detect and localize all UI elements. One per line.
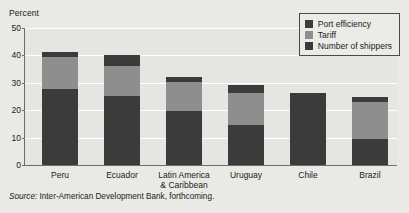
x-axis-category-label: Uruguay bbox=[230, 170, 262, 180]
y-tick-mark bbox=[22, 110, 25, 111]
bar-segment[interactable] bbox=[228, 93, 264, 125]
bar-segment[interactable] bbox=[42, 57, 78, 89]
bar-segment[interactable] bbox=[290, 93, 326, 165]
source-note: Source: Inter-American Development Bank,… bbox=[9, 192, 214, 201]
x-axis-category-label: Ecuador bbox=[106, 170, 138, 180]
legend-label: Tariff bbox=[318, 30, 336, 40]
bar-segment[interactable] bbox=[166, 111, 202, 165]
y-tick-mark bbox=[22, 138, 25, 139]
y-axis-title: Percent bbox=[9, 8, 39, 18]
y-tick-label: 30 bbox=[12, 78, 21, 88]
x-axis-category-label: Chile bbox=[298, 170, 317, 180]
bar-group[interactable]: Latin America & Caribbean bbox=[166, 77, 202, 165]
bar-segment[interactable] bbox=[228, 85, 264, 93]
source-label: Source: bbox=[9, 192, 37, 201]
bar-segment[interactable] bbox=[228, 125, 264, 165]
bar-group[interactable]: Chile bbox=[290, 93, 326, 165]
y-tick-label: 0 bbox=[16, 160, 21, 170]
bar-segment[interactable] bbox=[104, 96, 140, 165]
bar-segment[interactable] bbox=[352, 102, 388, 139]
bar-group[interactable]: Brazil bbox=[352, 97, 388, 165]
x-axis-category-label: Latin America & Caribbean bbox=[158, 170, 210, 190]
bar-segment[interactable] bbox=[352, 139, 388, 165]
x-axis-category-label: Peru bbox=[51, 170, 69, 180]
chart-figure: Percent 01020304050PeruEcuadorLatin Amer… bbox=[0, 0, 409, 213]
x-axis-category-label: Brazil bbox=[359, 170, 380, 180]
gridline bbox=[25, 83, 397, 84]
y-tick-label: 10 bbox=[12, 133, 21, 143]
legend-item[interactable]: Number of shippers bbox=[305, 40, 392, 51]
gridline bbox=[25, 138, 397, 139]
chart-legend: Port efficiencyTariffNumber of shippers bbox=[299, 13, 400, 56]
legend-swatch-icon bbox=[305, 42, 313, 50]
legend-item[interactable]: Port efficiency bbox=[305, 18, 392, 29]
y-tick-label: 50 bbox=[12, 23, 21, 33]
y-tick-mark bbox=[22, 83, 25, 84]
bar-segment[interactable] bbox=[42, 89, 78, 165]
y-tick-label: 40 bbox=[12, 50, 21, 60]
y-tick-mark bbox=[22, 165, 25, 166]
legend-item[interactable]: Tariff bbox=[305, 29, 392, 40]
y-tick-mark bbox=[22, 28, 25, 29]
legend-swatch-icon bbox=[305, 31, 313, 39]
source-text: Inter-American Development Bank, forthco… bbox=[37, 192, 214, 201]
bar-segment[interactable] bbox=[104, 66, 140, 96]
y-tick-mark bbox=[22, 55, 25, 56]
legend-swatch-icon bbox=[305, 20, 313, 28]
gridline bbox=[25, 110, 397, 111]
y-tick-label: 20 bbox=[12, 105, 21, 115]
bar-segment[interactable] bbox=[104, 55, 140, 66]
bar-segment[interactable] bbox=[166, 82, 202, 110]
bar-group[interactable]: Uruguay bbox=[228, 85, 264, 165]
bar-group[interactable]: Peru bbox=[42, 52, 78, 165]
bar-group[interactable]: Ecuador bbox=[104, 55, 140, 165]
legend-label: Port efficiency bbox=[318, 19, 371, 29]
legend-label: Number of shippers bbox=[318, 41, 392, 51]
